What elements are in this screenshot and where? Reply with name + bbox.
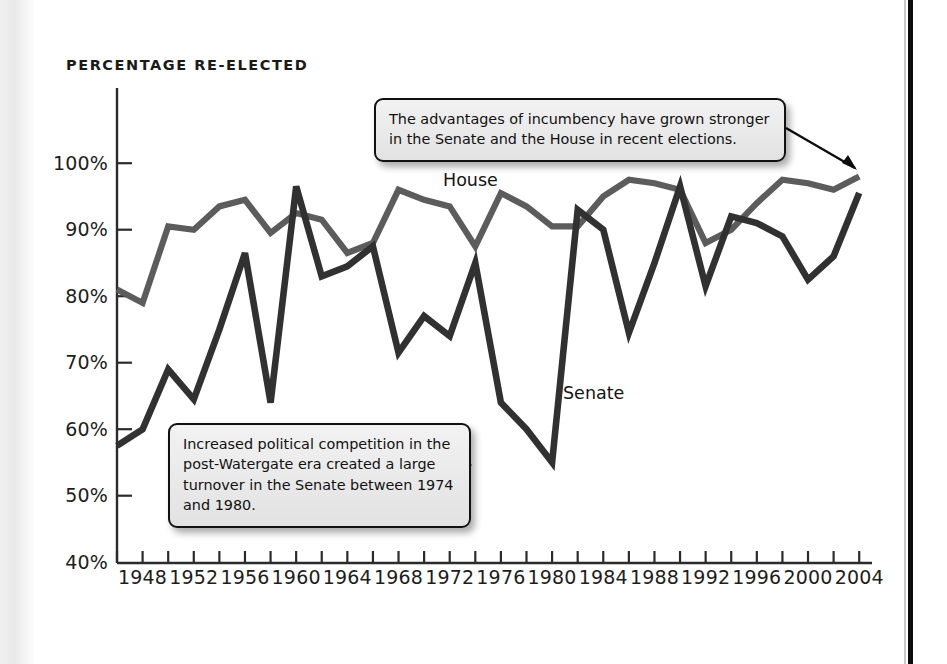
series-line-house	[117, 177, 859, 303]
series-label-senate: Senate	[563, 383, 624, 403]
y-tick-label-90: 90%	[46, 218, 108, 240]
x-tick-label-2000: 2000	[780, 566, 836, 588]
x-tick-label-1984: 1984	[575, 566, 631, 588]
y-tick-label-100: 100%	[46, 152, 108, 174]
x-tick-label-2004: 2004	[831, 566, 887, 588]
y-tick-label-60: 60%	[46, 418, 108, 440]
x-tick-label-1996: 1996	[729, 566, 785, 588]
x-tick-label-1992: 1992	[678, 566, 734, 588]
x-tick-label-1960: 1960	[268, 566, 324, 588]
x-tick-label-1956: 1956	[217, 566, 273, 588]
x-tick-label-1952: 1952	[166, 566, 222, 588]
x-tick-label-1980: 1980	[524, 566, 580, 588]
callout-incumbency: The advantages of incumbency have grown …	[374, 98, 786, 162]
x-tick-label-1968: 1968	[371, 566, 427, 588]
x-tick-label-1988: 1988	[626, 566, 682, 588]
x-tick-label-1976: 1976	[473, 566, 529, 588]
series-line-senate	[117, 187, 859, 463]
y-tick-label-50: 50%	[46, 484, 108, 506]
chart-page: PERCENTAGE RE-ELECTED	[0, 0, 947, 664]
y-tick-label-70: 70%	[46, 351, 108, 373]
series-label-house: House	[443, 170, 498, 190]
x-tick-label-1964: 1964	[319, 566, 375, 588]
y-tick-label-80: 80%	[46, 285, 108, 307]
x-axis-ticks	[117, 551, 859, 563]
arrow-incumbency-head	[842, 155, 857, 170]
callout-watergate: Increased political competition in the p…	[168, 423, 471, 528]
x-tick-label-1948: 1948	[115, 566, 171, 588]
y-tick-label-40: 40%	[46, 551, 108, 573]
x-tick-label-1972: 1972	[422, 566, 478, 588]
